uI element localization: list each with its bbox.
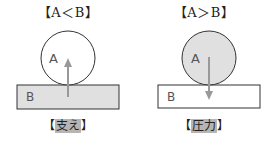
left-block-label: B [26,90,34,104]
right-panel-pressure: 【A＞B】 A B 【圧力】 [136,0,272,141]
right-caption-word: 圧力 [191,119,217,133]
left-caption: 【支え】 [0,116,136,133]
right-circle-label: A [191,51,200,66]
left-panel-support: 【A＜B】 A B 【支え】 [0,0,136,141]
left-circle-label: A [49,51,58,66]
right-caption: 【圧力】 [136,116,272,133]
left-caption-word: 支え [55,119,81,133]
right-block-label: B [167,90,175,104]
